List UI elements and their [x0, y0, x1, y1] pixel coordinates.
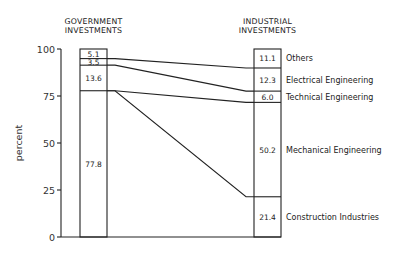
bar-category-label: INVESTMENTS	[65, 26, 123, 35]
segment-value: 12.3	[259, 76, 276, 85]
bar-category-label: INVESTMENTS	[239, 26, 297, 35]
chart: 0255075100percent77.813.63.55.1GOVERNMEN…	[0, 0, 407, 258]
y-tick-label: 0	[49, 232, 55, 243]
connector-lines	[107, 59, 254, 197]
segment-value: 77.8	[85, 160, 102, 169]
series-label: Construction Industries	[286, 213, 379, 222]
connector-line	[107, 91, 254, 197]
bar-category-label: INDUSTRIAL	[243, 17, 292, 26]
y-tick-label: 50	[43, 138, 55, 149]
segment-value: 11.1	[259, 54, 276, 63]
bar-category-label: GOVERNMENT	[65, 17, 123, 26]
series-label: Others	[286, 54, 313, 63]
y-tick-label: 25	[43, 185, 55, 196]
y-tick-label: 75	[43, 91, 55, 102]
series-label: Electrical Engineering	[286, 76, 373, 85]
segment-value: 13.6	[85, 74, 102, 83]
segment-value: 5.1	[88, 50, 100, 59]
connector-line	[107, 59, 254, 68]
segment-value: 21.4	[259, 213, 276, 222]
connector-line	[107, 91, 254, 103]
y-axis-label: percent	[13, 125, 24, 162]
segment-value: 6.0	[262, 93, 274, 102]
series-label: Mechanical Engineering	[286, 146, 382, 155]
series-label: Technical Engineering	[285, 93, 373, 102]
segment-value: 50.2	[259, 146, 276, 155]
connector-line	[107, 65, 254, 91]
segment-value: 3.5	[88, 58, 100, 67]
y-tick-label: 100	[37, 44, 55, 55]
